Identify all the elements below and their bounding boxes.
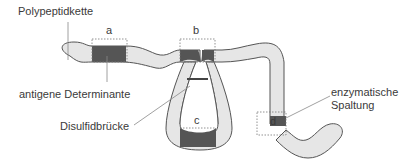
leader-cleavage — [286, 96, 330, 118]
site-label-c: c — [194, 114, 200, 126]
site-label-d: d — [270, 115, 276, 127]
site-label-a: a — [106, 24, 113, 36]
label-polypeptide-chain: Polypeptidkette — [18, 5, 93, 17]
polypeptide-chain-left — [62, 42, 200, 68]
label-enzymatic-cleavage-2: Spaltung — [331, 99, 374, 111]
polypeptide-diagram: Polypeptidkette antigene Determinante Di… — [0, 0, 406, 164]
label-enzymatic-cleavage-1: enzymatische — [331, 86, 398, 98]
antigenic-determinant-c — [180, 128, 216, 147]
label-antigenic-determinant: antigene Determinante — [19, 88, 130, 100]
antigenic-determinant-a — [92, 46, 126, 62]
site-label-b: b — [193, 24, 199, 36]
label-disulfide-bridge: Disulfidbrücke — [60, 120, 129, 132]
